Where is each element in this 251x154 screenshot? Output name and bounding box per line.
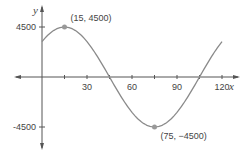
sinusoid-chart: 306090120 x 4500-4500 y (15, 4500)(75, −… bbox=[0, 0, 251, 154]
y-tick-label: 4500 bbox=[16, 22, 36, 32]
y-tick-label: -4500 bbox=[13, 122, 36, 132]
point-label: (15, 4500) bbox=[71, 13, 112, 23]
y-axis-up-arrow-icon bbox=[40, 5, 44, 12]
y-axis-down-arrow-icon bbox=[40, 143, 44, 150]
x-tick-label: 30 bbox=[82, 82, 92, 92]
x-tick-label: 120 bbox=[214, 82, 229, 92]
x-axis-left-arrow-icon bbox=[14, 75, 21, 79]
x-axis-right-arrow-icon bbox=[233, 75, 240, 79]
marked-point bbox=[62, 25, 67, 30]
point-label: (75, −4500) bbox=[161, 131, 207, 141]
x-tick-label: 90 bbox=[172, 82, 182, 92]
marked-point bbox=[152, 125, 157, 130]
x-tick-label: 60 bbox=[127, 82, 137, 92]
y-axis-label: y bbox=[32, 4, 38, 16]
x-axis: 306090120 x bbox=[14, 75, 240, 92]
x-axis-label: x bbox=[228, 80, 234, 92]
x-ticks: 306090120 bbox=[65, 75, 230, 92]
